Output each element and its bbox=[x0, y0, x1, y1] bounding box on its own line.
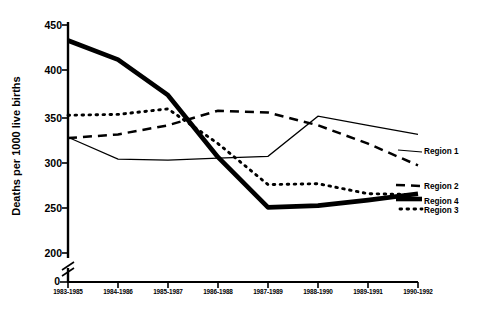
chart-container: Deaths per 1000 live births 450 400 350 … bbox=[0, 0, 477, 316]
plot-area bbox=[0, 0, 477, 316]
legend-key-region-1 bbox=[398, 150, 422, 152]
series-line-region-1 bbox=[68, 116, 418, 160]
legend-key-region-2 bbox=[396, 185, 422, 186]
series-line-region-4 bbox=[68, 41, 418, 208]
